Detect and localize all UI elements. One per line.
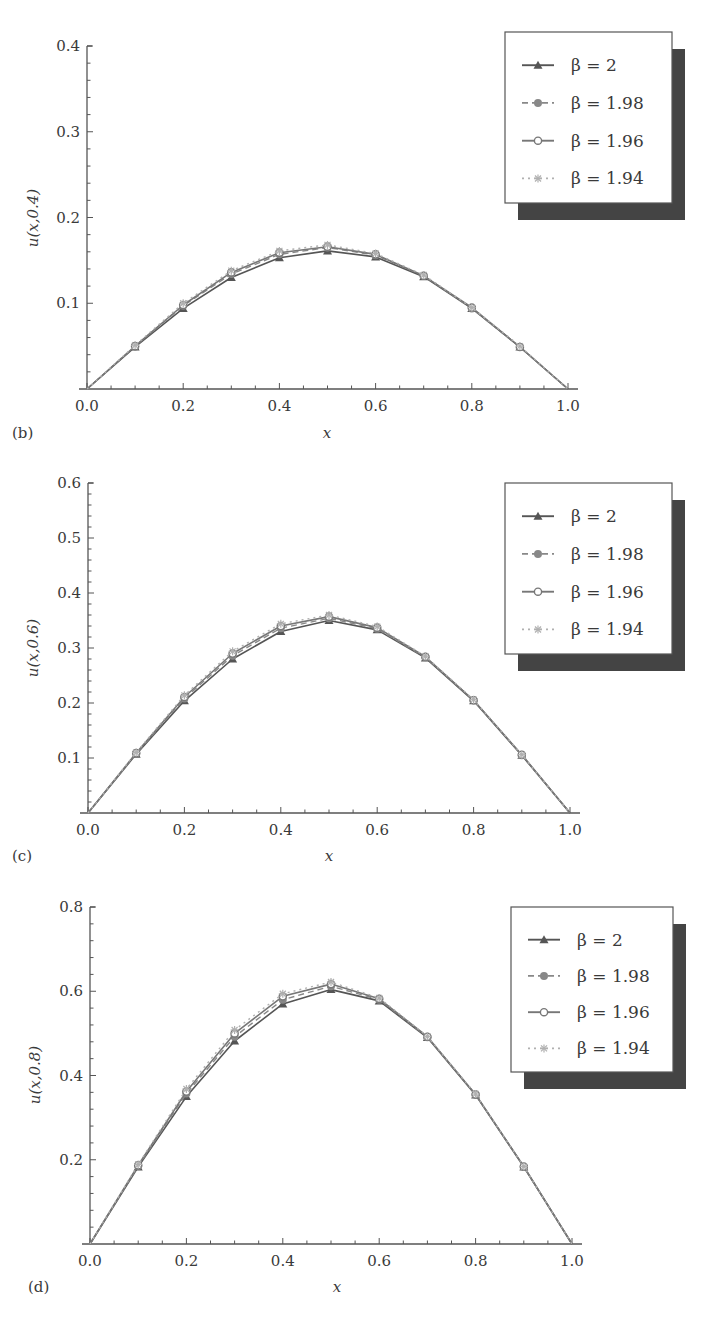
x-tick-label: 0.2 [174,1252,198,1270]
asterisk-marker-icon [277,620,285,628]
asterisk-marker-icon [518,751,526,759]
series-line [87,244,568,389]
y-tick-label: 0.3 [57,639,81,657]
x-tick-label: 1.0 [558,821,582,839]
asterisk-marker-icon [182,1085,190,1093]
asterisk-marker-icon [227,267,235,275]
y-tick-label: 0.1 [56,294,80,312]
x-tick-label: 0.4 [271,1252,295,1270]
x-tick-label: 0.6 [364,397,388,415]
series-line [90,980,572,1244]
x-tick-label: 0.0 [75,397,99,415]
legend-label: β = 1.98 [577,966,650,986]
chart-panel-b: 0.00.20.40.60.81.00.10.20.30.4xu(x,0.4)(… [12,32,685,442]
asterisk-marker-icon [534,174,542,182]
legend-label: β = 1.94 [571,168,644,188]
asterisk-marker-icon [180,691,188,699]
asterisk-marker-icon [420,271,428,279]
asterisk-marker-icon [131,341,139,349]
series-line [90,978,572,1244]
legend-label: β = 2 [577,930,623,950]
asterisk-marker-icon [231,1026,239,1034]
asterisk-marker-icon [134,1160,142,1168]
x-tick-label: 0.2 [171,397,195,415]
y-tick-label: 0.2 [59,1151,83,1169]
asterisk-marker-icon [534,625,542,633]
panel-label: (d) [28,1278,49,1296]
series-line [88,613,570,813]
y-axis-label: u(x,0.8) [26,1046,44,1105]
x-axis-label: x [325,847,334,865]
chart-panel-c: 0.00.20.40.60.81.00.10.20.30.40.50.6xu(x… [12,474,685,865]
chart-panel-d: 0.00.20.40.60.81.00.20.40.60.8xu(x,0.8)(… [26,898,686,1296]
asterisk-marker-icon [324,241,332,249]
open-circle-marker-icon [540,1009,547,1016]
legend-label: β = 1.96 [577,1002,650,1022]
axes [79,46,578,389]
asterisk-marker-icon [423,1032,431,1040]
y-tick-label: 0.6 [57,474,81,492]
x-tick-label: 0.6 [365,821,389,839]
open-circle-marker-icon [534,588,541,595]
open-circle-marker-icon [534,137,541,144]
asterisk-marker-icon [132,749,140,757]
axes [82,907,582,1244]
y-tick-label: 0.5 [57,529,81,547]
y-tick-label: 0.1 [57,749,81,767]
asterisk-marker-icon [540,1044,548,1052]
asterisk-marker-icon [229,647,237,655]
x-tick-label: 0.4 [269,821,293,839]
x-tick-label: 0.8 [464,1252,488,1270]
y-tick-label: 0.2 [57,694,81,712]
asterisk-marker-icon [520,1162,528,1170]
asterisk-marker-icon [275,247,283,255]
y-tick-label: 0.8 [59,898,83,916]
filled-circle-marker-icon [534,550,542,558]
panel-label: (c) [12,847,32,865]
asterisk-marker-icon [325,611,333,619]
x-tick-label: 0.4 [267,397,291,415]
legend: β = 2β = 1.98β = 1.96β = 1.94 [505,32,685,220]
x-tick-label: 0.8 [460,397,484,415]
panel-label: (b) [12,424,33,442]
y-tick-label: 0.4 [57,584,81,602]
legend-label: β = 1.94 [577,1038,650,1058]
series-line [88,611,570,813]
legend-label: β = 1.96 [571,582,644,602]
asterisk-marker-icon [375,994,383,1002]
x-axis-label: x [323,424,332,442]
y-axis-label: u(x,0.6) [24,619,42,678]
asterisk-marker-icon [421,652,429,660]
series-line [90,985,572,1244]
y-tick-label: 0.4 [56,37,80,55]
y-tick-label: 0.2 [56,209,80,227]
x-tick-label: 0.0 [78,1252,102,1270]
asterisk-marker-icon [470,696,478,704]
series-line [88,616,570,813]
asterisk-marker-icon [327,978,335,986]
legend-label: β = 2 [571,506,617,526]
x-tick-label: 0.6 [367,1252,391,1270]
x-tick-label: 1.0 [556,397,580,415]
y-tick-label: 0.6 [59,982,83,1000]
asterisk-marker-icon [279,990,287,998]
legend: β = 2β = 1.98β = 1.96β = 1.94 [511,907,686,1089]
x-tick-label: 0.2 [172,821,196,839]
y-tick-label: 0.3 [56,123,80,141]
x-tick-label: 0.8 [462,821,486,839]
x-tick-label: 0.0 [76,821,100,839]
asterisk-marker-icon [373,623,381,631]
legend-label: β = 1.96 [571,131,644,151]
series-line [87,241,568,389]
asterisk-marker-icon [472,1090,480,1098]
y-tick-label: 0.4 [59,1067,83,1085]
filled-circle-marker-icon [540,972,548,980]
legend-label: β = 2 [571,55,617,75]
series-line [87,243,568,389]
series-line [88,614,570,813]
asterisk-marker-icon [516,342,524,350]
x-axis-label: x [333,1278,342,1296]
legend-label: β = 1.94 [571,619,644,639]
y-axis-label: u(x,0.4) [24,189,42,248]
asterisk-marker-icon [372,250,380,258]
